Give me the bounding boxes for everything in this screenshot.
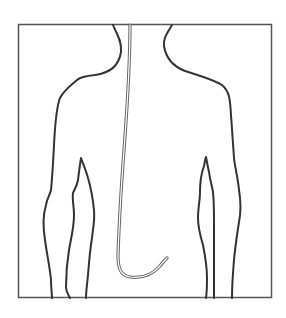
torso-illustration — [0, 0, 286, 318]
diagram-canvas: Line drawing of a human torso outline (f… — [0, 0, 286, 318]
